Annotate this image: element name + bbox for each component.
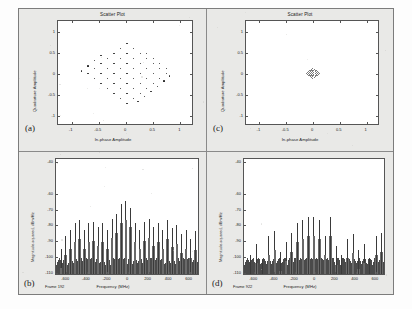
scatter-point: [126, 63, 127, 64]
tone-skirt: [382, 252, 383, 274]
scatter-point: [169, 75, 170, 76]
y-tick-mark: [190, 74, 192, 75]
scatter-point: [146, 68, 147, 69]
scatter-point: [120, 88, 121, 89]
scatter-point: [133, 48, 134, 49]
carrier-tone-spike: [341, 255, 342, 274]
tone-skirt: [286, 261, 287, 274]
tone-skirt: [309, 236, 310, 274]
panel-b-axes: [55, 158, 199, 275]
y-tick-mark: [376, 95, 378, 96]
y-tick-label: -100: [42, 254, 53, 259]
scatter-point: [107, 78, 108, 79]
tone-skirt: [125, 220, 126, 274]
tone-skirt: [292, 252, 293, 274]
tone-skirt: [112, 238, 113, 274]
scatter-point: [133, 68, 134, 69]
tone-skirt: [176, 244, 177, 274]
tone-skirt: [85, 249, 86, 274]
x-tick-label: -600: [61, 276, 69, 281]
x-tick-label: 0.5: [336, 127, 342, 132]
tone-skirt: [108, 249, 109, 274]
x-tick-mark: [190, 272, 191, 274]
x-tick-mark: [87, 272, 88, 274]
y-tick-mark: [244, 194, 246, 195]
tone-skirt: [92, 241, 93, 274]
x-tick-mark: [259, 122, 260, 124]
tone-skirt: [296, 242, 297, 274]
y-tick-label: -0.5: [45, 91, 55, 96]
scatter-point: [159, 78, 160, 79]
y-tick-mark: [244, 257, 246, 258]
scatter-point: [126, 53, 127, 54]
y-tick-mark: [190, 116, 192, 117]
x-tick-mark: [340, 122, 341, 124]
tone-skirt: [83, 249, 84, 274]
scatter-point: [100, 73, 101, 74]
x-tick-label: -400: [269, 276, 277, 281]
scan-speck: [385, 50, 386, 51]
panel-c: Scatter Plot Quadrature Amplitude In-pha…: [207, 9, 393, 152]
tone-skirt: [94, 241, 95, 274]
panel-d-letter: (d): [212, 278, 223, 288]
figure-page: Scatter Plot Quadrature Amplitude In-pha…: [0, 0, 412, 309]
scan-speck: [99, 152, 100, 153]
x-tick-mark: [180, 122, 181, 124]
y-tick-mark: [244, 210, 246, 211]
tone-skirt: [180, 253, 181, 274]
x-tick-mark: [286, 21, 287, 23]
tone-skirt: [80, 239, 81, 274]
tone-skirt: [60, 268, 61, 274]
x-tick-label: -200: [102, 276, 110, 281]
tone-skirt: [149, 238, 150, 274]
scatter-point: [140, 53, 141, 54]
tone-skirt: [185, 249, 186, 274]
tone-skirt: [145, 241, 146, 274]
panel-c-title: Scatter Plot: [207, 12, 393, 18]
scatter-point: [153, 63, 154, 64]
scatter-point: [137, 101, 138, 102]
x-tick-label: 400: [165, 276, 172, 281]
x-tick-label: 0: [311, 127, 313, 132]
y-tick-mark: [58, 53, 60, 54]
x-tick-mark: [315, 272, 316, 274]
x-tick-mark: [126, 122, 127, 124]
x-tick-mark: [107, 272, 108, 274]
y-tick-mark: [58, 74, 60, 75]
scatter-point: [126, 73, 127, 74]
y-tick-label: -0.5: [233, 91, 243, 96]
x-tick-mark: [153, 122, 154, 124]
tone-skirt: [98, 246, 99, 274]
y-tick-mark: [56, 225, 58, 226]
noise-spike: [384, 260, 385, 274]
x-tick-mark: [376, 272, 377, 274]
scatter-point: [140, 83, 141, 84]
y-tick-mark: [376, 53, 378, 54]
tone-skirt: [337, 265, 338, 274]
scatter-point: [315, 76, 316, 77]
tone-skirt: [122, 223, 123, 274]
tone-skirt: [106, 249, 107, 274]
scan-speck: [103, 120, 104, 121]
x-tick-mark: [335, 272, 336, 274]
x-tick-label: 1: [178, 127, 180, 132]
x-tick-mark: [259, 21, 260, 23]
x-tick-label: -200: [290, 276, 298, 281]
scatter-point: [81, 70, 82, 71]
x-tick-label: -600: [249, 276, 257, 281]
tone-skirt: [290, 252, 291, 274]
scatter-point: [316, 75, 317, 76]
scatter-point: [317, 75, 318, 76]
tone-skirt: [353, 253, 354, 274]
y-tick-label: 1: [233, 28, 243, 33]
tone-skirt: [152, 246, 153, 274]
tone-skirt: [131, 227, 132, 274]
y-tick-mark: [56, 241, 58, 242]
scatter-point: [113, 63, 114, 64]
y-tick-mark: [246, 116, 248, 117]
x-tick-mark: [169, 272, 170, 274]
panel-c-xlabel: In-phase Amplitude: [207, 137, 393, 142]
tone-skirt: [298, 242, 299, 274]
tone-skirt: [331, 236, 332, 274]
scan-speck: [192, 168, 193, 169]
